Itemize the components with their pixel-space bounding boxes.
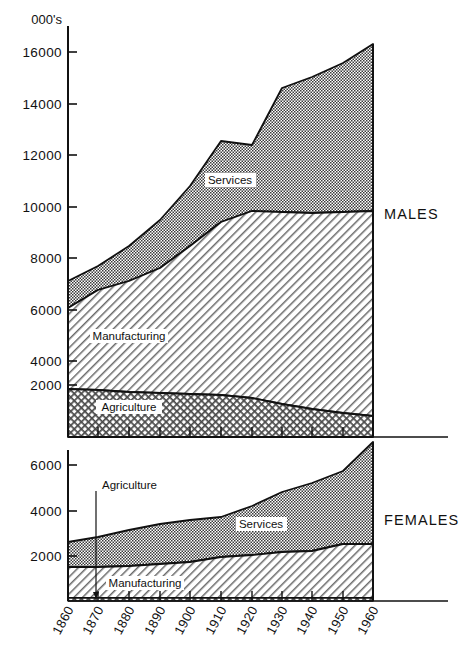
- xtick-label-1930: 1930: [263, 603, 290, 637]
- males-ytick-8000: 8000: [30, 251, 62, 266]
- xtick-label-1920: 1920: [233, 603, 260, 637]
- males-ytick-2000: 2000: [30, 378, 62, 393]
- xtick-label-1900: 1900: [171, 603, 198, 637]
- males-services-label: Services: [208, 174, 252, 186]
- employment-by-sector-chart: 16000 14000 12000 10000 8000 6000 4000 2…: [0, 0, 459, 656]
- xtick-label-1960: 1960: [354, 603, 381, 637]
- xtick-label-1950: 1950: [324, 603, 351, 637]
- xtick-label-1910: 1910: [202, 603, 229, 637]
- females-services-label: Services: [239, 518, 283, 530]
- females-agriculture-annotation: Agriculture: [102, 479, 157, 491]
- males-ytick-12000: 12000: [22, 148, 62, 163]
- males-areas: [68, 44, 373, 437]
- panel-label-females: FEMALES: [384, 512, 459, 528]
- males-label-agriculture: Agriculture: [96, 400, 162, 414]
- males-ytick-6000: 6000: [30, 303, 62, 318]
- females-ytick-6000: 6000: [30, 458, 62, 473]
- males-label-services: Services: [205, 173, 256, 187]
- males-ytick-10000: 10000: [22, 200, 62, 215]
- panel-females: 6000 4000 2000 Agriculture Services: [30, 442, 459, 637]
- figure-container: 16000 14000 12000 10000 8000 6000 4000 2…: [0, 0, 459, 656]
- xtick-label-1860: 1860: [49, 603, 76, 637]
- males-ytick-16000: 16000: [22, 45, 62, 60]
- males-manufacturing-label: Manufacturing: [93, 330, 166, 342]
- xtick-label-1870: 1870: [79, 603, 106, 637]
- males-agriculture-label: Agriculture: [102, 401, 157, 413]
- panel-males: 16000 14000 12000 10000 8000 6000 4000 2…: [22, 12, 448, 437]
- females-ytick-4000: 4000: [30, 504, 62, 519]
- females-label-manufacturing: Manufacturing: [106, 576, 184, 590]
- females-ytick-2000: 2000: [30, 549, 62, 564]
- females-manufacturing-label: Manufacturing: [109, 577, 182, 589]
- panel-label-males: MALES: [384, 206, 439, 222]
- males-area-manufacturing: [68, 211, 373, 416]
- males-ytick-4000: 4000: [30, 354, 62, 369]
- females-label-services: Services: [236, 517, 287, 531]
- males-label-manufacturing: Manufacturing: [90, 329, 168, 343]
- xtick-label-1890: 1890: [141, 603, 168, 637]
- xtick-label-1880: 1880: [110, 603, 137, 637]
- unit-label: 000's: [31, 12, 62, 27]
- xtick-label-1940: 1940: [293, 603, 320, 637]
- males-ytick-14000: 14000: [22, 97, 62, 112]
- x-axis-year-labels: 1860 1870 1880 1890 1900 1910 1920 1930 …: [49, 603, 381, 637]
